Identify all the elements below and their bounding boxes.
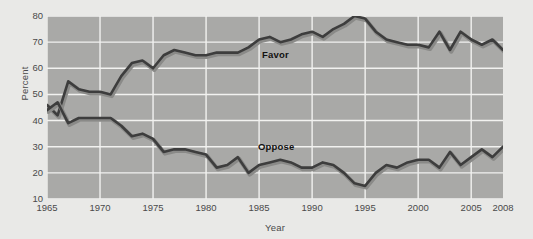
- x-tick-label: 1975: [133, 203, 173, 213]
- y-tick-label: 50: [17, 89, 43, 99]
- x-tick-label: 1995: [345, 203, 385, 213]
- x-axis-title: Year: [47, 222, 503, 233]
- series-line-favor: [47, 16, 503, 115]
- x-tick-label: 1980: [186, 203, 226, 213]
- plot-area: [47, 16, 503, 199]
- series-shadow: [48, 18, 503, 117]
- y-tick-label: 40: [17, 116, 43, 126]
- chart-figure: Percent 1020304050607080 196519701975198…: [0, 0, 533, 239]
- y-tick-label: 20: [17, 168, 43, 178]
- x-tick-label: 1990: [292, 203, 332, 213]
- y-tick-label: 70: [17, 37, 43, 47]
- series-label-favor: Favor: [262, 49, 289, 60]
- x-tick-label: 1985: [239, 203, 279, 213]
- x-tick-label: 2008: [483, 203, 523, 213]
- x-tick-label: 1965: [27, 203, 67, 213]
- y-tick-label: 80: [17, 11, 43, 21]
- y-tick-label: 30: [17, 142, 43, 152]
- x-tick-label: 1970: [80, 203, 120, 213]
- plot-svg: [47, 16, 503, 199]
- y-tick-label: 60: [17, 63, 43, 73]
- x-tick-label: 2000: [398, 203, 438, 213]
- series-label-oppose: Oppose: [258, 141, 295, 152]
